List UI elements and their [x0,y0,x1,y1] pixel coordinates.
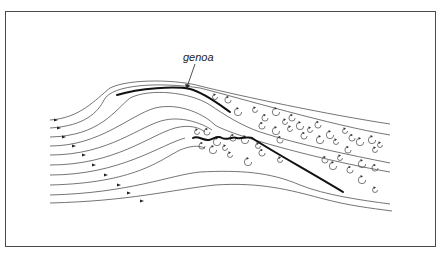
eddy [334,140,339,145]
eddy-arrowhead [339,154,342,157]
eddy [356,138,363,145]
eddy [288,127,293,132]
eddy-arrowhead [344,127,347,130]
eddy-arrowhead [303,132,306,135]
eddy [316,136,323,143]
eddy [315,122,321,128]
flow-arrow [127,192,131,195]
eddy [253,108,258,113]
eddy [209,146,216,153]
eddy-arrowhead [359,137,362,140]
eddy [259,150,265,156]
eddy-arrowhead [229,151,232,154]
eddy-arrowhead [261,122,264,125]
eddy-arrowhead [317,121,320,124]
streamline [50,171,390,204]
eddy-arrowhead [349,166,352,169]
flow-arrow [92,164,96,167]
eddy [329,162,336,169]
eddy [345,147,351,153]
streamline [50,146,205,185]
eddy-arrowhead [275,107,278,110]
eddy-arrowhead [232,134,235,137]
eddy-arrowhead [379,141,382,144]
eddy-arrowhead [371,135,374,138]
eddy-arrowhead [196,128,199,131]
flow-arrow [82,154,86,157]
eddy-arrowhead [214,93,217,96]
eddy-arrowhead [212,145,215,148]
airflow-diagram: genoa [0,0,446,255]
eddy [199,143,205,149]
streamline [50,119,212,155]
eddy-arrowhead [237,107,240,110]
eddy [378,143,383,148]
eddy-arrowhead [309,126,312,129]
eddy [372,165,378,171]
streamline [50,138,185,175]
eddy [195,130,200,135]
flow-arrow [140,200,144,203]
eddy [326,131,333,138]
eddy-arrowhead [361,159,364,162]
eddy-arrowhead [324,156,327,159]
eddy-arrowhead [374,164,377,167]
eddy [349,135,355,141]
eddies [195,93,383,192]
eddy-arrowhead [227,96,230,99]
flow-arrow [104,174,108,177]
eddy-arrowhead [329,130,332,133]
genoa-label: genoa [183,51,214,63]
eddy-arrowhead [224,144,227,147]
eddy-arrowhead [289,125,292,128]
eddy-arrowhead [335,138,338,141]
flow-arrow [117,184,121,187]
eddy-arrowhead [247,157,250,160]
eddy [308,128,313,133]
eddy [343,129,348,134]
eddy-arrowhead [361,175,364,178]
eddy [256,144,261,149]
streamline [50,81,390,124]
eddy [338,156,343,161]
eddy [368,136,375,143]
eddy-arrowhead [254,106,257,109]
eddy-arrowhead [299,121,302,124]
eddy [347,167,353,173]
eddy-arrowhead [201,142,204,145]
eddy [278,158,283,163]
eddy [244,158,251,165]
eddy [213,138,220,145]
streamline [50,106,390,172]
flow-arrow [72,145,76,148]
eddy-arrowhead [332,161,335,164]
eddy-arrowhead [291,114,294,117]
eddy [373,148,378,153]
eddy [228,153,233,158]
eddy-arrowhead [351,134,354,137]
eddy-arrowhead [264,114,267,117]
eddy [272,127,279,134]
eddy [225,97,231,103]
eddy [213,95,218,100]
eddy [358,176,365,183]
eddy [234,108,241,115]
eddy [301,133,307,139]
eddy [322,157,328,163]
eddy-arrowhead [206,128,209,131]
eddy-arrowhead [261,149,264,152]
eddy-arrowhead [347,146,350,149]
streamline [50,184,392,211]
eddy-arrowhead [374,146,377,149]
eddy [296,122,303,129]
eddy [283,120,288,125]
eddy [223,146,228,151]
eddy [373,188,378,193]
eddy-arrowhead [279,156,282,159]
eddy [289,115,295,121]
eddy-arrowhead [374,186,377,189]
eddy [259,123,265,129]
eddy-arrowhead [284,118,287,121]
eddy [262,115,268,121]
eddy-arrowhead [275,126,278,129]
